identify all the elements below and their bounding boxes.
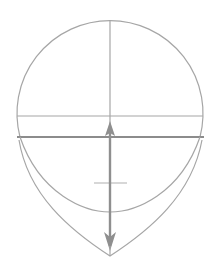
diagram-svg xyxy=(0,0,218,273)
head-proportion-diagram xyxy=(0,0,218,273)
